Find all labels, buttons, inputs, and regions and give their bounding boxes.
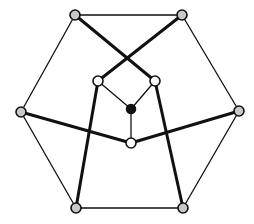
edge-top-right-inner-left [98, 15, 182, 81]
node-inner-left [93, 76, 103, 86]
edge-left-top-left [21, 15, 75, 112]
edge-bottom-left-inner-left [76, 81, 98, 208]
node-bottom-right [178, 203, 188, 213]
node-right [234, 106, 244, 116]
node-bottom-left [71, 203, 81, 213]
edge-top-right-right [182, 15, 239, 111]
node-inner-right [150, 76, 160, 86]
node-left [16, 107, 26, 117]
node-top-right [177, 10, 187, 20]
node-center [127, 105, 136, 114]
edge-left-inner-bottom [21, 112, 131, 143]
edge-bottom-right-inner-right [155, 81, 183, 208]
node-top-left [70, 10, 80, 20]
edge-top-left-inner-right [75, 15, 155, 81]
node-layer [16, 10, 244, 213]
graph-diagram [0, 0, 254, 224]
node-inner-bottom [126, 138, 136, 148]
edge-inner-left-center [98, 81, 131, 109]
